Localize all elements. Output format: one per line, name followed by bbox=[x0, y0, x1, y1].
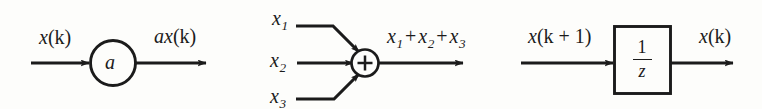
delay-transfer-function: 1 z bbox=[627, 38, 657, 81]
gain-symbol: a bbox=[105, 52, 115, 72]
summer-input-3-label: x3 bbox=[270, 86, 286, 109]
summer-input-2-label: x2 bbox=[270, 50, 286, 74]
delay-output-label: x(k) bbox=[699, 26, 731, 46]
gain-output-label: ax(k) bbox=[154, 26, 196, 46]
delay-input-label-arg: (k + 1) bbox=[537, 25, 592, 47]
summer-input-3-subscript: 3 bbox=[279, 96, 286, 109]
summer-input-1-arrow bbox=[296, 26, 359, 52]
gain-input-label: x(k) bbox=[39, 27, 71, 47]
gain-output-label-base: x bbox=[164, 25, 173, 47]
gain-input-label-arg: (k) bbox=[48, 26, 71, 48]
summer-input-3-base: x bbox=[270, 85, 279, 107]
summer-output-term3-subscript: 3 bbox=[458, 36, 465, 51]
delay-output-label-base: x bbox=[699, 25, 708, 47]
summer-output-plus-2: + bbox=[434, 25, 449, 47]
delay-output-label-arg: (k) bbox=[708, 25, 731, 47]
summer-input-2-base: x bbox=[270, 49, 279, 71]
summer-input-2-subscript: 2 bbox=[279, 60, 286, 75]
delay-numerator: 1 bbox=[627, 38, 657, 57]
summer-input-1-base: x bbox=[272, 7, 281, 29]
fraction-bar bbox=[633, 59, 652, 61]
figure-canvas: x(k) a ax(k) x1 x2 x3 x1+x2+x3 x(k + 1) … bbox=[0, 0, 762, 109]
delay-input-label-base: x bbox=[528, 25, 537, 47]
gain-output-label-arg: (k) bbox=[173, 25, 196, 47]
summer-output-label: x1+x2+x3 bbox=[387, 26, 466, 50]
summer-output-plus-1: + bbox=[403, 25, 418, 47]
delay-input-label: x(k + 1) bbox=[528, 26, 592, 46]
summer-output-term1-subscript: 1 bbox=[396, 36, 403, 51]
gain-input-label-base: x bbox=[39, 26, 48, 48]
delay-denominator: z bbox=[627, 62, 657, 81]
gain-output-label-gain: a bbox=[154, 25, 164, 47]
summer-output-term2-base: x bbox=[418, 25, 427, 47]
summer-input-1-subscript: 1 bbox=[281, 18, 288, 33]
summer-input-1-label: x1 bbox=[272, 8, 288, 32]
summer-output-term1-base: x bbox=[387, 25, 396, 47]
summer-input-3-arrow bbox=[296, 74, 359, 99]
